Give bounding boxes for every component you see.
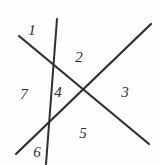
region-label-3: 3 — [121, 85, 129, 100]
region-label-7: 7 — [20, 87, 28, 102]
region-label-5: 5 — [79, 126, 87, 141]
geometry-figure: 1 2 3 4 5 6 7 — [0, 0, 161, 165]
region-label-6: 6 — [33, 145, 41, 160]
region-label-4: 4 — [54, 85, 62, 100]
region-label-2: 2 — [75, 50, 83, 65]
region-label-1: 1 — [28, 23, 36, 38]
